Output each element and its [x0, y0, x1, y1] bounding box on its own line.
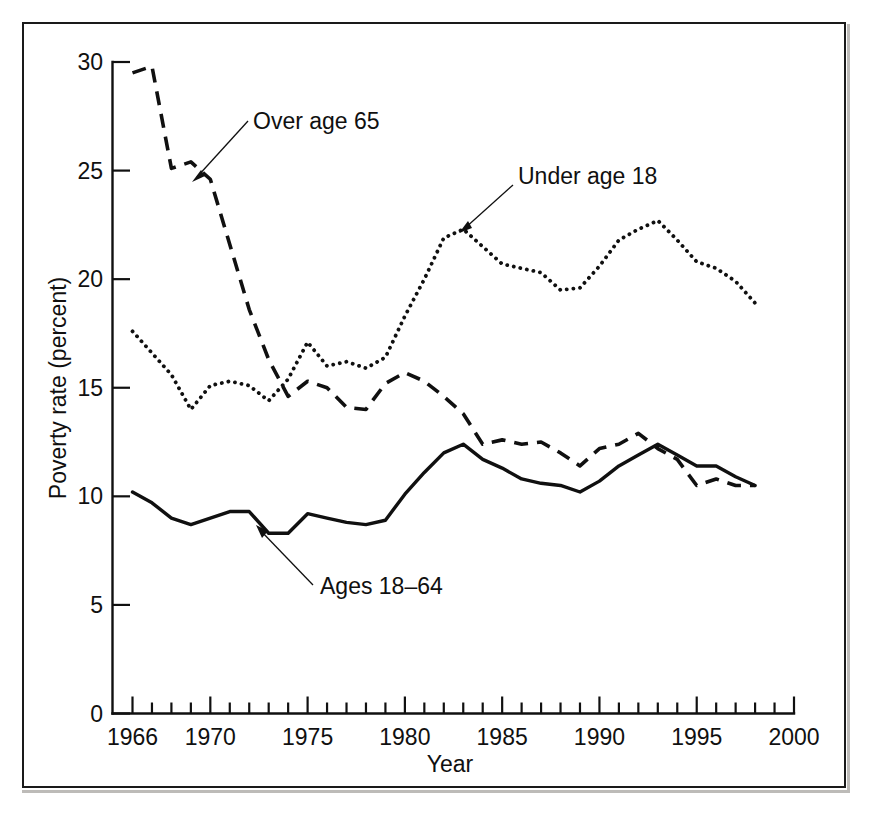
y-axis-title: Poverty rate (percent) [45, 277, 71, 499]
annotation-label-under-age-18: Under age 18 [518, 163, 657, 189]
poverty-rate-line-chart: 051015202530 196619701975198019851990199… [0, 0, 870, 823]
y-tick-label-group: 051015202530 [77, 49, 103, 727]
series-line-ages-18-64 [133, 444, 756, 533]
y-tick-label-15: 15 [77, 375, 103, 401]
x-tick-label-1985: 1985 [477, 724, 528, 750]
leader-line-over-age-65 [197, 121, 248, 177]
axis-group [113, 62, 795, 714]
annotation-under-age-18: Under age 18 [459, 163, 657, 233]
x-tick-label-1975: 1975 [282, 724, 333, 750]
x-tick-label-1970: 1970 [185, 724, 236, 750]
x-tick-label-2000: 2000 [768, 724, 819, 750]
annotation-over-age-65: Over age 65 [192, 108, 380, 182]
x-axis-title: Year [427, 751, 474, 777]
x-tick-label-group: 19661970197519801985199019952000 [107, 724, 820, 750]
y-tick-label-20: 20 [77, 266, 103, 292]
leader-line-under-age-18 [464, 185, 513, 229]
leader-line-ages-18-64 [260, 530, 313, 585]
x-tick-label-1966: 1966 [107, 724, 158, 750]
annotation-label-over-age-65: Over age 65 [253, 108, 380, 134]
annotation-label-ages-18-64: Ages 18–64 [320, 573, 443, 599]
y-tick-group [113, 62, 131, 714]
y-tick-label-30: 30 [77, 49, 103, 75]
x-minor-tick-group [152, 703, 775, 714]
series-line-over-age-65 [133, 66, 756, 485]
figure-page: 051015202530 196619701975198019851990199… [0, 0, 870, 823]
arrowhead-over-age-65 [192, 170, 205, 182]
y-tick-label-25: 25 [77, 158, 103, 184]
data-series-group [133, 66, 756, 533]
series-line-under-age-18 [133, 221, 756, 410]
annotation-ages-18-64: Ages 18–64 [256, 525, 443, 599]
y-tick-label-5: 5 [90, 592, 103, 618]
x-tick-label-1990: 1990 [574, 724, 625, 750]
x-tick-label-1980: 1980 [379, 724, 430, 750]
x-tick-label-1995: 1995 [671, 724, 722, 750]
y-tick-label-0: 0 [90, 701, 103, 727]
y-tick-label-10: 10 [77, 483, 103, 509]
